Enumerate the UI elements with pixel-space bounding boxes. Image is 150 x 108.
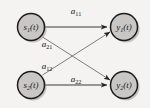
signal-flow-diagram: s1(t) s2(t) y1(t) [0,0,150,108]
node-y1: y1(t) [111,14,140,43]
node-y1-label: y1(t) [115,22,132,33]
edge-label-a11: a11 [71,6,81,17]
edges-group [43,27,111,85]
node-y2: y2(t) [111,72,140,101]
edge-label-a22: a22 [71,74,82,85]
edge-s2-y1 [43,32,111,75]
node-s1-label: s1(t) [23,22,38,33]
edge-s1-y2 [43,37,111,80]
edge-labels-group: a11 a21 a12 a22 [42,6,82,85]
edge-label-a21: a21 [42,39,53,50]
diagram-canvas: s1(t) s2(t) y1(t) [0,0,150,108]
node-s2: s2(t) [18,72,47,101]
node-y2-label: y2(t) [115,80,132,91]
node-s2-label: s2(t) [23,80,38,91]
edge-label-a12: a12 [42,61,53,72]
